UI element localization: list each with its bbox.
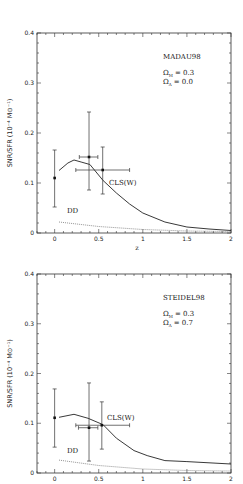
y-tick-label: 0.3 bbox=[24, 320, 34, 327]
x-tick-label: 1.5 bbox=[182, 475, 192, 482]
y-tick-label: 0.4 bbox=[24, 29, 34, 36]
x-tick-label: 0 bbox=[53, 475, 57, 482]
plot-frame bbox=[37, 33, 231, 233]
x-tick-label: 0.5 bbox=[94, 475, 104, 482]
x-tick-label: 2 bbox=[229, 475, 233, 482]
plot-frame bbox=[37, 274, 231, 473]
y-axis-label: SNR/SFR (10⁻⁴ M⊙⁻¹) bbox=[6, 339, 14, 408]
omega-lambda-label: ΩΛ= 0.7 bbox=[163, 319, 193, 328]
chart-svg: 00.511.5200.10.20.30.4SNR/SFR (10⁻⁴ M⊙⁻¹… bbox=[0, 240, 243, 484]
cls-curve-label: CLS(W) bbox=[107, 414, 135, 422]
omega-m-label: ΩM= 0.3 bbox=[163, 69, 194, 78]
data-point bbox=[78, 383, 97, 461]
dd-curve-label: DD bbox=[67, 207, 79, 215]
dd-curve bbox=[59, 460, 231, 471]
omega-m-label: ΩM= 0.3 bbox=[163, 310, 194, 319]
data-point bbox=[79, 112, 98, 190]
y-tick-label: 0.2 bbox=[24, 129, 34, 136]
chart-svg: 00.511.5200.10.20.30.4SNR/SFR (10⁻⁴ M⊙⁻¹… bbox=[0, 0, 243, 250]
model-label: STEIDEL98 bbox=[163, 294, 205, 302]
dd-curve bbox=[59, 222, 231, 232]
data-point bbox=[53, 389, 57, 447]
omega-lambda-label: ΩΛ= 0.0 bbox=[163, 78, 193, 87]
x-tick-label: 1 bbox=[141, 475, 145, 482]
data-point bbox=[53, 150, 57, 207]
cls-curve-label: CLS(W) bbox=[109, 179, 137, 187]
cls-curve bbox=[59, 160, 231, 231]
y-tick-label: 0.1 bbox=[24, 419, 34, 426]
cls-curve bbox=[59, 414, 231, 464]
model-label: MADAU98 bbox=[163, 53, 201, 61]
y-tick-label: 0 bbox=[30, 229, 34, 236]
y-tick-label: 0 bbox=[30, 469, 34, 476]
y-tick-label: 0.1 bbox=[24, 179, 34, 186]
chart-panel-steidel98: 00.511.5200.10.20.30.4SNR/SFR (10⁻⁴ M⊙⁻¹… bbox=[0, 240, 243, 484]
y-axis-label: SNR/SFR (10⁻⁴ M⊙⁻¹) bbox=[6, 99, 14, 168]
dd-curve-label: DD bbox=[67, 447, 79, 455]
y-tick-label: 0.3 bbox=[24, 79, 34, 86]
y-tick-label: 0.2 bbox=[24, 370, 34, 377]
y-tick-label: 0.4 bbox=[24, 270, 34, 277]
chart-panel-madau98: 00.511.5200.10.20.30.4SNR/SFR (10⁻⁴ M⊙⁻¹… bbox=[0, 0, 243, 250]
